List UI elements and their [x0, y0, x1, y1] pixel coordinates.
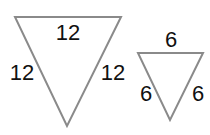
small-triangle-right-label: 6: [192, 81, 204, 106]
similar-triangles-diagram: 12 12 12 6 6 6: [0, 0, 210, 135]
small-triangle: 6 6 6: [138, 27, 204, 120]
large-triangle-top-label: 12: [56, 20, 80, 45]
large-triangle-right-label: 12: [101, 60, 125, 85]
large-triangle: 12 12 12: [10, 17, 125, 126]
small-triangle-left-label: 6: [140, 81, 152, 106]
small-triangle-top-label: 6: [165, 27, 177, 52]
large-triangle-left-label: 12: [10, 60, 34, 85]
